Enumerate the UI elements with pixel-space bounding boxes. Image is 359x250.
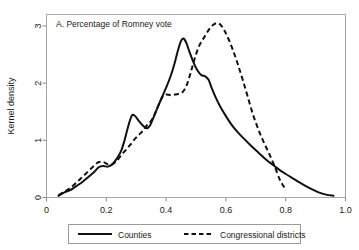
x-tick-label: 1.0 bbox=[339, 205, 352, 215]
x-tick-label: 0.2 bbox=[100, 205, 113, 215]
y-axis-ticks: 0123 bbox=[33, 23, 47, 200]
y-tick-label: 3 bbox=[33, 23, 43, 28]
legend: Counties Congressional districts bbox=[69, 225, 306, 244]
panel-title: A. Percentage of Romney vote bbox=[56, 19, 172, 29]
series-congressional-districts bbox=[58, 23, 285, 195]
y-axis-title: Kernel density bbox=[6, 77, 16, 135]
series-counties bbox=[58, 38, 333, 195]
series-layer bbox=[58, 23, 333, 196]
y-tick-label: 1 bbox=[33, 138, 43, 143]
figure-container: 00.20.40.60.81.0 0123 Kernel density A. … bbox=[0, 0, 359, 250]
legend-label-counties: Counties bbox=[118, 230, 152, 240]
plot-frame bbox=[47, 15, 346, 198]
kernel-density-chart: 00.20.40.60.81.0 0123 Kernel density A. … bbox=[0, 0, 359, 250]
legend-label-congressional-districts: Congressional districts bbox=[220, 230, 306, 240]
x-tick-label: 0.4 bbox=[160, 205, 173, 215]
x-axis-ticks: 00.20.40.60.81.0 bbox=[44, 198, 352, 215]
x-tick-label: 0.8 bbox=[279, 205, 292, 215]
y-tick-label: 0 bbox=[33, 195, 43, 200]
y-tick-label: 2 bbox=[33, 81, 43, 86]
x-tick-label: 0.6 bbox=[220, 205, 233, 215]
x-tick-label: 0 bbox=[44, 205, 49, 215]
